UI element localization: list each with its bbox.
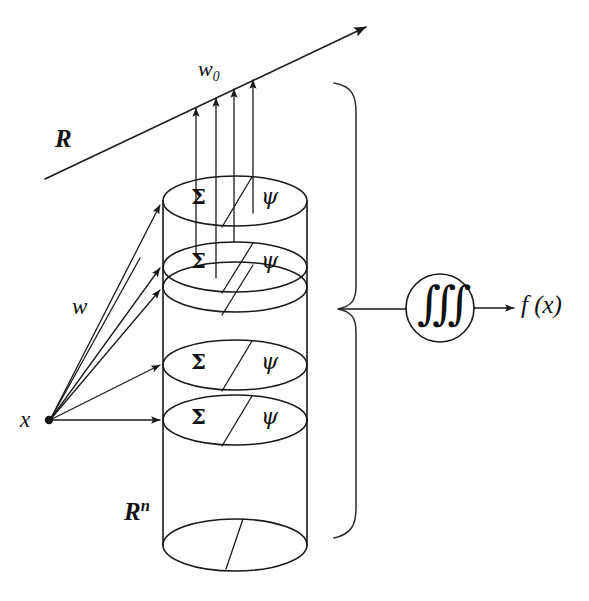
diagram-vector-layer	[0, 0, 589, 601]
unit-slice-4	[163, 395, 307, 446]
unit-1-sum-label: Σ	[191, 186, 206, 207]
unit-4-sum-label: Σ	[191, 406, 206, 427]
input-point-label: x	[20, 408, 30, 431]
unit-2-activation-label: ψ	[261, 250, 278, 272]
domain-space-label: Rn	[124, 498, 150, 524]
unit-3-activation-label: ψ	[261, 351, 278, 373]
grouping-brace	[334, 83, 356, 538]
unit-4-activation-label: ψ	[261, 406, 278, 428]
bias-weight-symbol: w	[198, 56, 213, 81]
weight-arrow-1	[50, 205, 160, 420]
unit-slice-3	[163, 340, 307, 391]
weight-arrow-4	[50, 365, 160, 420]
unit-slice-1	[163, 176, 307, 227]
unit-3-sum-label: Σ	[191, 351, 206, 372]
unit-1-activation-label: ψ	[261, 186, 278, 208]
unit-2-sum-label: Σ	[191, 250, 206, 271]
hidden-cylinder	[163, 201, 307, 571]
weight-arrow-2	[50, 268, 160, 420]
range-space-label: R	[55, 126, 72, 151]
domain-space-exponent: n	[141, 496, 150, 515]
input-point-dot	[45, 416, 53, 424]
unit-slice-2	[163, 242, 307, 315]
figure-canvas: R w0 w x Rn Σ ψ Σ ψ Σ ψ Σ ψ ∭ f (x)	[0, 0, 589, 601]
bias-weight-subscript: 0	[213, 69, 220, 84]
weight-arrow-3	[50, 290, 160, 420]
weight-vector-label: w	[72, 295, 87, 318]
bias-weight-label: w0	[198, 58, 220, 84]
range-line	[45, 27, 366, 179]
integral-symbol-label: ∭	[417, 283, 471, 324]
cylinder-base	[163, 519, 307, 571]
output-function-label: f (x)	[521, 292, 562, 317]
weight-arrow-group	[45, 205, 160, 424]
domain-space-symbol: R	[124, 498, 141, 525]
